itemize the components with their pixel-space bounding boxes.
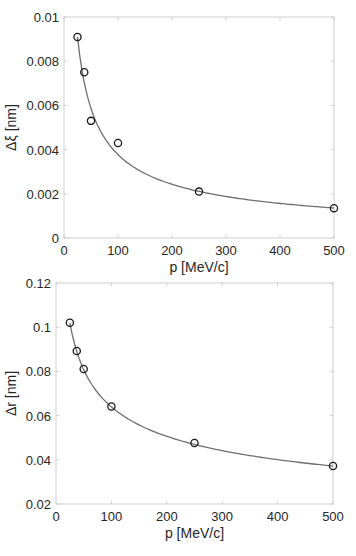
fit-curve xyxy=(78,37,335,208)
x-tick-label: 300 xyxy=(215,243,237,258)
y-tick-label: 0.08 xyxy=(26,364,51,379)
y-tick-label: 0.06 xyxy=(26,409,51,424)
x-axis-label: p [MeV/c] xyxy=(169,259,228,275)
y-axis-label: Δr [nm] xyxy=(3,371,19,416)
chart-delta-xi: 010020030040050000.0020.0040.0060.0080.0… xyxy=(3,10,345,275)
y-tick-label: 0.02 xyxy=(26,497,51,512)
y-axis-label: Δξ [nm] xyxy=(3,104,19,151)
figure: 010020030040050000.0020.0040.0060.0080.0… xyxy=(0,0,356,556)
x-tick-label: 300 xyxy=(211,509,233,524)
x-tick-label: 0 xyxy=(52,509,59,524)
x-tick-label: 200 xyxy=(156,509,178,524)
data-point-marker xyxy=(114,139,121,146)
y-tick-label: 0.04 xyxy=(26,453,51,468)
x-tick-label: 200 xyxy=(161,243,183,258)
data-point-marker xyxy=(87,117,94,124)
chart-delta-r: 01002003004005000.020.040.060.080.10.12p… xyxy=(3,276,344,541)
y-tick-label: 0 xyxy=(52,231,59,246)
x-tick-label: 400 xyxy=(267,509,289,524)
y-tick-label: 0.1 xyxy=(33,320,51,335)
x-tick-label: 400 xyxy=(269,243,291,258)
x-tick-label: 0 xyxy=(60,243,67,258)
x-axis-label: p [MeV/c] xyxy=(165,525,224,541)
y-tick-label: 0.004 xyxy=(26,143,59,158)
fit-curve xyxy=(70,323,333,466)
y-tick-label: 0.008 xyxy=(26,54,59,69)
x-tick-label: 100 xyxy=(107,243,129,258)
y-tick-label: 0.12 xyxy=(26,276,51,291)
y-tick-label: 0.002 xyxy=(26,187,59,202)
x-tick-label: 500 xyxy=(323,243,345,258)
x-tick-label: 100 xyxy=(101,509,123,524)
y-tick-label: 0.01 xyxy=(34,10,59,25)
x-tick-label: 500 xyxy=(322,509,344,524)
y-tick-label: 0.006 xyxy=(26,98,59,113)
data-point-marker xyxy=(191,439,198,446)
